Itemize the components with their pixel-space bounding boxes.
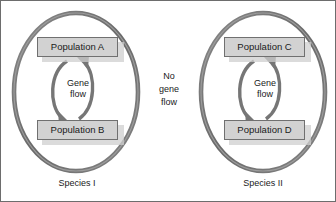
species-1-gene-flow-label: Gene flow: [58, 78, 98, 100]
population-d-box[interactable]: Population D: [224, 120, 305, 140]
species-2-gene-flow-label: Gene flow: [245, 78, 285, 100]
species-1-gene-flow-label-line1: Gene: [58, 78, 98, 89]
population-b-label: Population B: [51, 125, 105, 135]
population-d-label: Population D: [237, 125, 291, 135]
no-gene-flow-line3: flow: [148, 96, 190, 109]
species-1-gene-flow-label-line2: flow: [58, 89, 98, 100]
population-c-box[interactable]: Population C: [224, 37, 305, 57]
no-gene-flow-line2: gene: [148, 83, 190, 96]
species-1-label-text: Species I: [58, 178, 95, 188]
species-1-label: Species I: [36, 178, 118, 188]
population-b-box[interactable]: Population B: [37, 120, 118, 140]
population-a-label: Population A: [51, 42, 104, 52]
population-a-box[interactable]: Population A: [37, 37, 118, 57]
no-gene-flow-line1: No: [148, 70, 190, 83]
species-2-label: Species II: [222, 178, 304, 188]
species-2-gene-flow-label-line2: flow: [245, 89, 285, 100]
species-2-gene-flow-label-line1: Gene: [245, 78, 285, 89]
species-2-label-text: Species II: [243, 178, 283, 188]
no-gene-flow-label: No gene flow: [148, 70, 190, 109]
population-c-label: Population C: [237, 42, 291, 52]
gene-flow-diagram: Population A Population B Gene flow Spec…: [0, 0, 336, 202]
